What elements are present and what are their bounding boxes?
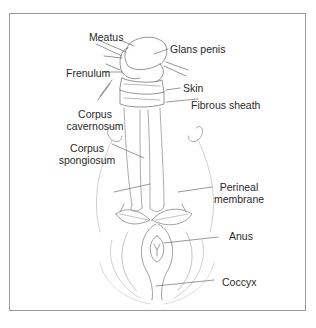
label-perineal-membrane-2: membrane xyxy=(210,193,268,205)
label-perineal-membrane-1: Perineal xyxy=(212,181,266,193)
label-skin: Skin xyxy=(183,82,203,94)
label-frenulum: Frenulum xyxy=(66,67,110,79)
label-anus: Anus xyxy=(229,230,253,242)
anatomy-illustration xyxy=(0,0,316,328)
label-meatus: Meatus xyxy=(89,31,123,43)
label-coccyx: Coccyx xyxy=(222,276,256,288)
leader-lines xyxy=(104,40,218,286)
anal-region-drawing xyxy=(100,224,214,304)
label-corpus-cavernosum-2: cavernosum xyxy=(64,120,126,132)
label-corpus-cavernosum-1: Corpus xyxy=(70,108,120,120)
perineal-drawing xyxy=(116,204,192,225)
label-glans-penis: Glans penis xyxy=(170,43,225,55)
label-fibrous-sheath: Fibrous sheath xyxy=(191,99,260,111)
label-corpus-spongiosum-1: Corpus xyxy=(60,142,114,154)
shaft-drawing xyxy=(98,78,164,107)
label-corpus-spongiosum-2: spongiosum xyxy=(56,154,118,166)
